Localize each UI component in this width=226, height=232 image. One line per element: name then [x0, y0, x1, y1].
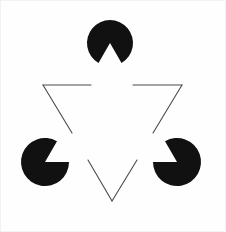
bottom-left-disc [21, 138, 69, 186]
right-edge-upper-part [153, 85, 182, 133]
inverted-outline-triangle [43, 85, 182, 201]
left-edge-upper-part [43, 85, 72, 133]
right-edge-lower-part [112, 160, 137, 201]
left-edge-lower-part [88, 160, 112, 201]
top-disc [87, 20, 133, 63]
kanizsa-triangle-figure [0, 0, 226, 232]
notched-discs-group [21, 20, 201, 186]
figure-stage [0, 0, 226, 232]
bottom-right-disc [153, 138, 201, 186]
